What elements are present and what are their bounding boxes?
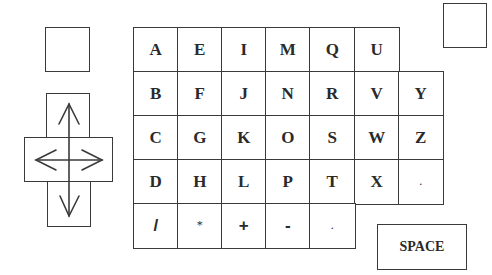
key-h[interactable]: H xyxy=(177,159,223,205)
key-slash[interactable]: / xyxy=(133,203,179,249)
key-o[interactable]: O xyxy=(265,115,311,161)
key-t[interactable]: T xyxy=(309,159,356,205)
key-label: G xyxy=(193,128,206,148)
key-label: M xyxy=(280,40,296,60)
key-u[interactable]: U xyxy=(354,27,400,73)
key-label: A xyxy=(150,40,162,60)
key-m[interactable]: M xyxy=(265,27,311,73)
key-n[interactable]: N xyxy=(265,71,311,117)
top-right-blank-key[interactable] xyxy=(443,3,487,48)
key-plus[interactable]: + xyxy=(221,203,267,249)
key-g[interactable]: G xyxy=(177,115,223,161)
key-label: S xyxy=(328,128,337,148)
key-label: / xyxy=(153,216,158,236)
key-period[interactable]: . xyxy=(309,203,356,249)
key-label: X xyxy=(371,172,383,192)
key-label: Y xyxy=(415,84,427,104)
key-label: Q xyxy=(326,40,339,60)
key-label: L xyxy=(238,172,249,192)
key-label: Z xyxy=(415,128,426,148)
key-label: - xyxy=(285,216,291,236)
key-s[interactable]: S xyxy=(309,115,356,161)
key-label: I xyxy=(240,40,247,60)
key-k[interactable]: K xyxy=(221,115,267,161)
key-label: J xyxy=(240,84,249,104)
key-j[interactable]: J xyxy=(221,71,267,117)
key-b[interactable]: B xyxy=(133,71,179,117)
key-label: . xyxy=(331,218,334,233)
dpad-down-button[interactable] xyxy=(47,181,91,227)
dpad-up-button[interactable] xyxy=(46,93,90,138)
key-z[interactable]: Z xyxy=(398,115,444,161)
key-label: W xyxy=(368,128,385,148)
key-label: F xyxy=(195,84,205,104)
key-q[interactable]: Q xyxy=(309,27,356,73)
space-key[interactable]: SPACE xyxy=(377,224,467,270)
key-label: B xyxy=(150,84,161,104)
key-e[interactable]: E xyxy=(177,27,223,73)
top-left-blank-key[interactable] xyxy=(45,27,90,72)
key-label: C xyxy=(150,128,162,148)
key-label: R xyxy=(326,84,338,104)
key-label: * xyxy=(197,218,203,233)
key-v[interactable]: V xyxy=(354,71,400,117)
key-label: D xyxy=(150,172,162,192)
key-label: P xyxy=(283,172,293,192)
key-label: V xyxy=(371,84,383,104)
key-label: T xyxy=(327,172,338,192)
key-i[interactable]: I xyxy=(221,27,267,73)
key-f[interactable]: F xyxy=(177,71,223,117)
key-r[interactable]: R xyxy=(309,71,356,117)
key-d[interactable]: D xyxy=(133,159,179,205)
key-y[interactable]: Y xyxy=(398,71,444,117)
key-label: . xyxy=(419,174,422,189)
key-label: O xyxy=(281,128,294,148)
key-minus[interactable]: - xyxy=(265,203,311,249)
space-key-label: SPACE xyxy=(400,239,445,255)
key-p[interactable]: P xyxy=(265,159,311,205)
key-label: + xyxy=(239,216,249,236)
dpad-horizontal-bar[interactable] xyxy=(24,137,113,182)
key-a[interactable]: A xyxy=(133,27,179,73)
key-label: U xyxy=(371,40,383,60)
key-label: N xyxy=(282,84,294,104)
key-period[interactable]: . xyxy=(398,159,444,205)
key-c[interactable]: C xyxy=(133,115,179,161)
key-label: E xyxy=(194,40,205,60)
key-w[interactable]: W xyxy=(354,115,400,161)
key-l[interactable]: L xyxy=(221,159,267,205)
key-asterisk[interactable]: * xyxy=(177,203,223,249)
key-label: K xyxy=(237,128,250,148)
key-label: H xyxy=(193,172,206,192)
key-x[interactable]: X xyxy=(354,159,400,205)
